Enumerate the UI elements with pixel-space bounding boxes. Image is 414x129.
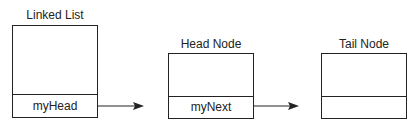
linked-list-title: Linked List — [12, 8, 98, 22]
tail-node-field-empty — [322, 96, 406, 118]
tail-node-body — [322, 54, 406, 97]
arrowhead-icon — [288, 102, 299, 110]
arrowhead-icon — [133, 102, 144, 110]
head-node-body — [169, 54, 253, 97]
linked-list-box: myHead — [12, 25, 98, 118]
head-node-title: Head Node — [168, 37, 254, 51]
linked-list-body — [13, 26, 97, 95]
arrow-mynext-to-tail-node — [254, 102, 299, 110]
head-node-field-mynext: myNext — [169, 96, 253, 118]
linked-list-field-myhead: myHead — [13, 94, 97, 117]
arrow-myhead-to-head-node — [98, 102, 144, 110]
head-node-box: myNext — [168, 53, 254, 119]
tail-node-box — [321, 53, 407, 119]
tail-node-title: Tail Node — [321, 37, 407, 51]
